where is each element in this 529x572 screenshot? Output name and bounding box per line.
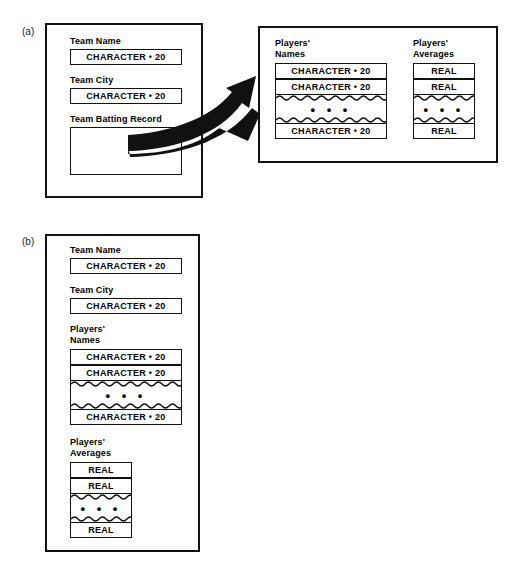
panel-b-label: (b) — [22, 236, 34, 247]
cell-players-name-last: CHARACTER • 20 — [275, 123, 387, 139]
slot-team-name: CHARACTER • 20 — [70, 49, 182, 65]
ellipsis-glyph: • • • — [71, 389, 181, 402]
slot-team-name-b: CHARACTER • 20 — [70, 258, 182, 274]
ellipsis-glyph: • • • — [276, 103, 386, 116]
cell-players-name-2: CHARACTER • 20 — [275, 79, 387, 95]
slot-team-batting-record — [70, 127, 182, 175]
cell-players-name-ellipsis: • • • — [275, 95, 387, 123]
column-label-players-names-a: Players' Names — [275, 38, 310, 60]
array-label-players-names-b: Players' Names — [70, 324, 105, 346]
field-label-team-name: Team Name — [70, 36, 121, 47]
cell-players-name-1: CHARACTER • 20 — [275, 63, 387, 79]
cell-players-average-1: REAL — [413, 63, 475, 79]
ellipsis-glyph: • • • — [414, 103, 474, 116]
column-label-players-averages-a: Players' Averages — [413, 38, 454, 60]
field-label-team-name-b: Team Name — [70, 245, 121, 256]
cell-players-average-b-ellipsis: • • • — [70, 494, 132, 522]
panel-a-label: (a) — [22, 26, 34, 37]
figure-root: (a) Team Name CHARACTER • 20 Team City C… — [0, 0, 529, 572]
cell-players-name-b-2: CHARACTER • 20 — [70, 365, 182, 381]
cell-players-average-b-2: REAL — [70, 478, 132, 494]
array-label-players-averages-b: Players' Averages — [70, 437, 111, 459]
slot-team-city-b: CHARACTER • 20 — [70, 298, 182, 314]
slot-team-city: CHARACTER • 20 — [70, 88, 182, 104]
cell-players-average-ellipsis: • • • — [413, 95, 475, 123]
cell-players-average-b-1: REAL — [70, 462, 132, 478]
cell-players-name-b-ellipsis: • • • — [70, 381, 182, 409]
cell-players-average-b-last: REAL — [70, 522, 132, 538]
cell-players-average-last: REAL — [413, 123, 475, 139]
cell-players-name-b-last: CHARACTER • 20 — [70, 409, 182, 425]
field-label-team-batting-record: Team Batting Record — [70, 114, 162, 125]
ellipsis-glyph: • • • — [71, 502, 131, 515]
field-label-team-city: Team City — [70, 75, 113, 86]
cell-players-name-b-1: CHARACTER • 20 — [70, 349, 182, 365]
field-label-team-city-b: Team City — [70, 285, 113, 296]
cell-players-average-2: REAL — [413, 79, 475, 95]
